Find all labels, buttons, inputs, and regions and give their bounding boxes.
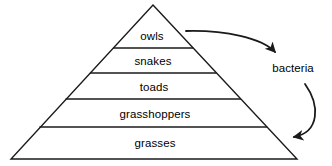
arrow-bacteria-to-grasses: [294, 84, 315, 137]
pyramid-level-label-grasses: grasses: [135, 137, 176, 149]
pyramid-level-label-snakes: snakes: [134, 55, 171, 67]
pyramid-level-label-grasshoppers: grasshoppers: [120, 108, 191, 120]
pyramid-level-label-owls: owls: [140, 30, 163, 42]
bacteria-label: bacteria: [272, 62, 314, 74]
arrow-owls-to-bacteria: [186, 31, 275, 52]
energy-pyramid-diagram: owls snakes toads grasshoppers grasses b…: [0, 0, 332, 166]
pyramid-level-label-toads: toads: [140, 81, 169, 93]
